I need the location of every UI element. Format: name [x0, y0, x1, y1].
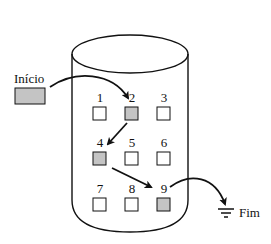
- cell-label-5: 5: [125, 136, 139, 149]
- cell-label-9: 9: [157, 182, 171, 195]
- arrow-9-to-end: [170, 178, 225, 204]
- cell-6: [157, 152, 170, 165]
- cell-label-3: 3: [157, 91, 171, 104]
- cell-label-8: 8: [125, 182, 139, 195]
- cell-3: [157, 107, 170, 120]
- cell-9: [157, 198, 170, 211]
- cell-2: [125, 107, 138, 120]
- cell-label-7: 7: [93, 182, 107, 195]
- cell-label-6: 6: [157, 136, 171, 149]
- cell-label-4: 4: [93, 136, 107, 149]
- cell-7: [93, 198, 106, 211]
- cell-5: [125, 152, 138, 165]
- cell-8: [125, 198, 138, 211]
- end-label: Fim: [239, 206, 260, 219]
- cell-label-1: 1: [93, 91, 107, 104]
- start-label: Início: [14, 72, 44, 85]
- cell-4: [93, 152, 106, 165]
- ground-icon: [218, 209, 234, 217]
- start-box: [15, 88, 45, 104]
- cylinder-diagram: [0, 0, 271, 244]
- cell-label-2: 2: [125, 91, 139, 104]
- arrow-start-to-2: [50, 76, 128, 98]
- cell-1: [93, 107, 106, 120]
